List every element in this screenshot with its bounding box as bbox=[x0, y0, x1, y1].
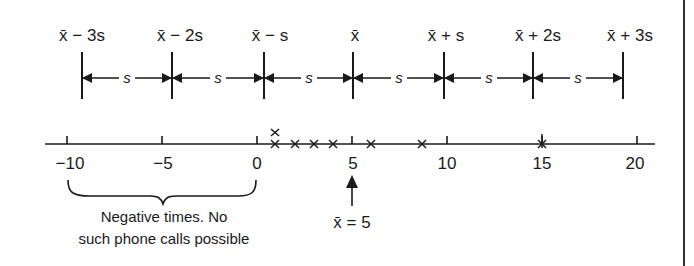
brace-note-line2: such phone calls possible bbox=[79, 230, 250, 247]
label-minus-s: x̄ − s bbox=[252, 26, 288, 45]
sd-diagram: x̄ − 3s x̄ − 2s x̄ − s x̄ x̄ + s x̄ + 2s… bbox=[0, 0, 694, 266]
label-plus-s: x̄ + s bbox=[428, 26, 464, 45]
data-point-star-mark bbox=[538, 134, 546, 148]
s-label: s bbox=[305, 69, 313, 86]
frame-border bbox=[683, 0, 685, 266]
brace-note-line1: Negative times. No bbox=[101, 208, 228, 225]
mean-annotation: x̄ = 5 bbox=[333, 213, 370, 232]
s-label: s bbox=[123, 69, 131, 86]
mean-arrow: x̄ = 5 bbox=[333, 175, 370, 232]
s-label: s bbox=[214, 69, 222, 86]
tick-label: −10 bbox=[56, 154, 85, 173]
data-points bbox=[271, 129, 546, 148]
interval-labels: x̄ − 3s x̄ − 2s x̄ − s x̄ x̄ + s x̄ + 2s… bbox=[59, 26, 653, 45]
tick-label: 20 bbox=[626, 154, 645, 173]
tick-labels: −10 −5 0 5 10 15 20 bbox=[56, 154, 645, 173]
arrow-up-icon bbox=[346, 175, 358, 188]
s-label: s bbox=[485, 69, 493, 86]
label-minus-2s: x̄ − 2s bbox=[157, 26, 203, 45]
s-label: s bbox=[574, 69, 582, 86]
boundary-lines bbox=[82, 52, 623, 99]
tick-label: 10 bbox=[438, 154, 457, 173]
s-label: s bbox=[395, 69, 403, 86]
label-plus-2s: x̄ + 2s bbox=[515, 26, 561, 45]
label-minus-3s: x̄ − 3s bbox=[59, 26, 105, 45]
number-line bbox=[45, 136, 655, 144]
label-plus-3s: x̄ + 3s bbox=[607, 26, 653, 45]
tick-label: 15 bbox=[533, 154, 552, 173]
tick-label: −5 bbox=[153, 154, 172, 173]
tick-label: 0 bbox=[252, 154, 261, 173]
negative-times-brace: Negative times. No such phone calls poss… bbox=[68, 180, 256, 247]
data-point-x-mark bbox=[271, 129, 279, 136]
label-mean: x̄ bbox=[351, 26, 360, 45]
tick-label: 5 bbox=[348, 154, 357, 173]
